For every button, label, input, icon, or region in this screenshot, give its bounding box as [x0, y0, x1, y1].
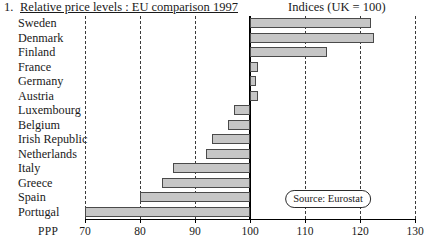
bar-luxembourg [234, 105, 251, 115]
category-label-france: France [18, 60, 51, 75]
chart-screenshot: 1. Relative price levels : EU comparison… [0, 0, 430, 240]
tick-110 [305, 219, 306, 223]
gridline-90 [195, 16, 196, 219]
category-label-irish-republic: Irish Republic [18, 132, 87, 147]
ppp-unit-label: PPP [38, 224, 58, 238]
tick-130 [415, 219, 416, 223]
gridline-70 [85, 16, 86, 219]
category-label-sweden: Sweden [18, 16, 57, 31]
tick-80 [140, 219, 141, 223]
bar-france [250, 62, 258, 72]
bar-sweden [250, 18, 371, 28]
category-label-germany: Germany [18, 74, 63, 89]
category-label-austria: Austria [18, 89, 54, 104]
category-label-greece: Greece [18, 176, 53, 191]
gridline-120 [360, 16, 361, 219]
tick-label-100: 100 [241, 224, 258, 238]
bar-greece [162, 178, 250, 188]
page-title: Relative price levels : EU comparison 19… [20, 0, 238, 15]
category-label-spain: Spain [18, 190, 46, 205]
tick-label-70: 70 [79, 224, 91, 238]
category-label-italy: Italy [18, 161, 40, 176]
tick-label-80: 80 [134, 224, 146, 238]
plot-area [85, 16, 415, 219]
gridline-80 [140, 16, 141, 219]
bar-germany [250, 76, 256, 86]
bar-finland [250, 47, 327, 57]
bar-denmark [250, 33, 374, 43]
bar-austria [250, 91, 258, 101]
tick-70 [85, 219, 86, 223]
tick-label-90: 90 [189, 224, 201, 238]
bar-portugal [85, 207, 250, 217]
bar-netherlands [206, 149, 250, 159]
category-axis: SwedenDenmarkFinlandFranceGermanyAustria… [0, 16, 83, 219]
tick-100 [250, 219, 251, 223]
tick-label-110: 110 [297, 224, 314, 238]
category-label-portugal: Portugal [18, 205, 59, 220]
category-label-netherlands: Netherlands [18, 147, 77, 162]
category-label-finland: Finland [18, 45, 55, 60]
tick-label-130: 130 [406, 224, 423, 238]
bar-belgium [228, 120, 250, 130]
tick-90 [195, 219, 196, 223]
bar-italy [173, 163, 250, 173]
category-label-denmark: Denmark [18, 31, 63, 46]
tick-label-120: 120 [351, 224, 368, 238]
bar-irish-republic [212, 134, 251, 144]
figure-number: 1. [4, 0, 13, 15]
category-label-luxembourg: Luxembourg [18, 103, 81, 118]
bar-spain [140, 192, 250, 202]
category-label-belgium: Belgium [18, 118, 60, 133]
source-annotation: Source: Eurostat [285, 190, 371, 208]
tick-120 [360, 219, 361, 223]
gridline-130 [415, 16, 416, 219]
indices-note: Indices (UK = 100) [288, 0, 386, 15]
